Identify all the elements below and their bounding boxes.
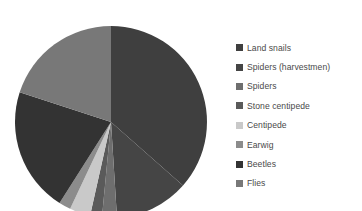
legend-color-swatch <box>236 122 243 129</box>
legend-item-label: Spiders <box>247 81 277 91</box>
legend-item[interactable]: Flies <box>236 174 362 193</box>
pie-slice-group: Land snails: 36.5Spiders (harvestmen): 1… <box>15 26 207 211</box>
legend-item-label: Centipede <box>247 120 287 130</box>
legend-color-swatch <box>236 161 243 168</box>
legend-item[interactable]: Earwig <box>236 135 362 154</box>
legend-item[interactable]: Beetles <box>236 154 362 173</box>
legend-item-label: Stone centipede <box>247 101 310 111</box>
legend-item-label: Beetles <box>247 159 276 169</box>
legend-item[interactable]: Land snails <box>236 38 362 57</box>
pie-chart-svg: Land snails: 36.5Spiders (harvestmen): 1… <box>0 0 226 211</box>
chart-screenshot: Land snails: 36.5Spiders (harvestmen): 1… <box>0 0 362 211</box>
legend-color-swatch <box>236 64 243 71</box>
legend-color-swatch <box>236 102 243 109</box>
legend-item-label: Earwig <box>247 140 274 150</box>
legend-item-label: Land snails <box>247 43 291 53</box>
pie-chart-plot-area: Land snails: 36.5Spiders (harvestmen): 1… <box>0 0 226 211</box>
legend-color-swatch <box>236 83 243 90</box>
legend-item[interactable]: Spiders <box>236 77 362 96</box>
legend-item-label: Spiders (harvestmen) <box>247 62 330 72</box>
chart-legend: Land snailsSpiders (harvestmen)SpidersSt… <box>236 38 362 193</box>
legend-item[interactable]: Spiders (harvestmen) <box>236 57 362 76</box>
legend-color-swatch <box>236 180 243 187</box>
legend-color-swatch <box>236 141 243 148</box>
legend-item-label: Flies <box>247 178 265 188</box>
legend-item[interactable]: Centipede <box>236 116 362 135</box>
legend-item[interactable]: Stone centipede <box>236 96 362 115</box>
legend-color-swatch <box>236 44 243 51</box>
